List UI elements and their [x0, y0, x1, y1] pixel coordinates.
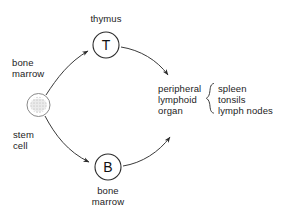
lymphocyte-development-diagram: T B thymus bone marrow stem cell bone ma…: [0, 0, 291, 216]
peripheral-organs-list: spleen tonsils lymph nodes: [218, 83, 273, 116]
t-cell-letter: T: [91, 38, 121, 52]
arrow-stem-to-b: [45, 116, 89, 162]
curly-brace: [206, 84, 213, 114]
stem-cell-label: stem cell: [13, 129, 34, 151]
arrow-t-to-peripheral: [121, 47, 168, 75]
b-cell-letter: B: [93, 160, 123, 174]
arrow-stem-to-t: [46, 51, 88, 95]
stem-cell-node: [27, 94, 50, 117]
bone-marrow-label-top: bone marrow: [12, 57, 44, 79]
bone-marrow-label-bottom: bone marrow: [92, 185, 124, 207]
arrow-b-to-peripheral: [123, 137, 170, 166]
thymus-label: thymus: [90, 13, 121, 24]
peripheral-lymphoid-organ-label: peripheral lymphoid organ: [158, 83, 201, 116]
